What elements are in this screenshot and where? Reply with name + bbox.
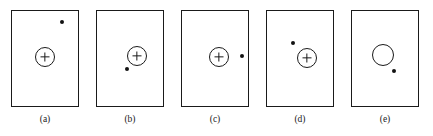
panel-d-circle-marker (297, 48, 317, 68)
panel-e-dot (392, 69, 396, 73)
panel-b-label: (b) (100, 114, 160, 125)
panel-b-crosshair-vertical (136, 52, 137, 61)
panel-d-dot (291, 41, 295, 45)
panel-d-crosshair-vertical (306, 54, 307, 63)
panel-c-circle-marker (209, 47, 229, 67)
panel-a-crosshair-vertical (44, 53, 45, 62)
panel-b-circle-marker (127, 46, 147, 66)
panel-c-label: (c) (185, 114, 245, 125)
panel-c-crosshair-vertical (218, 53, 219, 62)
figure-panel-grid: (a)(b)(c)(d)(e) (0, 0, 433, 136)
panel-a-label: (a) (15, 114, 75, 125)
panel-e-circle-marker (372, 44, 394, 66)
panel-a-circle-marker (35, 47, 55, 67)
panel-a-dot (60, 20, 64, 24)
panel-d-label: (d) (270, 114, 330, 125)
panel-e-label: (e) (355, 114, 415, 125)
panel-b-dot (125, 67, 129, 71)
panel-c-dot (240, 54, 244, 58)
